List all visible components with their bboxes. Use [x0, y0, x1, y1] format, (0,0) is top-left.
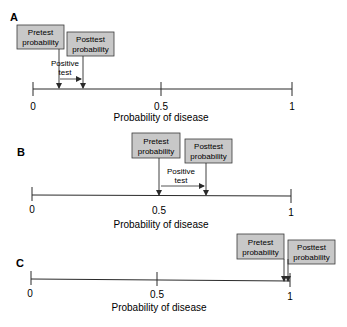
pretest-label-line2-c: probability — [242, 248, 278, 257]
tick-label-05-c: 0.5 — [150, 289, 164, 300]
posttest-label-line2-a: probability — [72, 45, 108, 54]
tick-label-1-a: 1 — [289, 101, 295, 112]
tick-label-1-b: 1 — [288, 207, 294, 218]
probability-diagram: A 0 0.5 1 Probability of disease Pretest… — [0, 0, 347, 327]
pretest-label-line1-a: Pretest — [28, 28, 54, 37]
positive-test-line1-b: Positive — [167, 167, 196, 176]
positive-test-line2-a: test — [59, 68, 73, 77]
panel-label-a: A — [10, 11, 18, 23]
panel-b: B 0 0.5 1 Probability of disease Pretest… — [17, 133, 294, 230]
posttest-label-line1-c: Posttest — [297, 243, 327, 252]
pretest-label-line2-b: probability — [138, 147, 174, 156]
posttest-label-line1-a: Posttest — [76, 35, 106, 44]
positive-test-line1-a: Positive — [51, 59, 80, 68]
posttest-label-line2-c: probability — [293, 253, 329, 262]
panel-label-b: B — [17, 146, 25, 158]
tick-label-0-b: 0 — [29, 204, 35, 215]
posttest-label-line1-b: Posttest — [194, 142, 224, 151]
pretest-label-line2-a: probability — [22, 38, 58, 47]
axis-line-c — [31, 279, 290, 281]
axis-label-b: Probability of disease — [113, 219, 208, 230]
posttest-label-line2-b: probability — [190, 152, 226, 161]
tick-label-0-a: 0 — [30, 101, 36, 112]
pretest-label-line1-c: Pretest — [248, 238, 274, 247]
axis-label-c: Probability of disease — [111, 302, 206, 313]
tick-label-05-b: 0.5 — [152, 205, 166, 216]
axis-label-a: Probability of disease — [113, 112, 208, 123]
panel-c: C 0 0.5 1 Probability of disease Pretest… — [16, 234, 335, 313]
panel-label-c: C — [16, 257, 24, 269]
tick-label-0-c: 0 — [27, 288, 33, 299]
axis-line-b — [32, 195, 291, 196]
panel-a: A 0 0.5 1 Probability of disease Pretest… — [10, 11, 295, 123]
tick-label-1-c: 1 — [287, 291, 293, 302]
tick-label-05-a: 0.5 — [154, 101, 168, 112]
pretest-label-line1-b: Pretest — [143, 137, 169, 146]
positive-test-line2-b: test — [175, 176, 189, 185]
